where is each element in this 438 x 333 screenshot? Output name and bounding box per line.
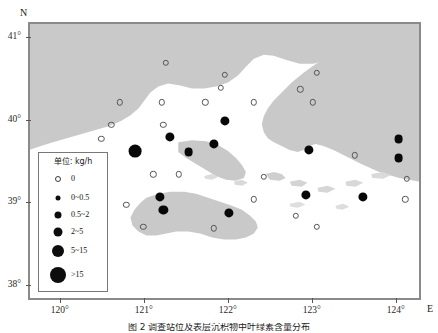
y-tick-label: 39° bbox=[0, 197, 21, 207]
x-tick-mark bbox=[312, 298, 313, 303]
station-dot bbox=[394, 153, 403, 162]
legend-label: 0~0.5 bbox=[71, 194, 89, 202]
legend-label: 0.5~2 bbox=[71, 211, 89, 219]
y-tick-label: 41° bbox=[0, 32, 21, 42]
x-tick-mark bbox=[228, 298, 229, 303]
y-tick-label: 40° bbox=[0, 115, 21, 125]
legend-label: 2~5 bbox=[71, 228, 83, 236]
north-axis-letter: N bbox=[20, 8, 27, 18]
legend-label: >15 bbox=[71, 271, 84, 279]
y-tick-mark bbox=[26, 202, 31, 203]
x-tick-label: 122° bbox=[203, 306, 253, 316]
legend-dot bbox=[54, 228, 63, 237]
legend-dot bbox=[56, 196, 61, 201]
legend-label: 5~15 bbox=[71, 247, 87, 255]
legend-title: 单位: kg/h bbox=[39, 158, 107, 166]
x-tick-label: 123° bbox=[287, 306, 337, 316]
legend-dot bbox=[50, 267, 66, 283]
station-dot bbox=[184, 148, 193, 157]
figure-root: N E 41°40°39°3 bbox=[0, 0, 438, 333]
x-tick-label: 120° bbox=[35, 306, 85, 316]
legend-dot bbox=[55, 212, 62, 219]
x-tick-mark bbox=[60, 298, 61, 303]
legend-box: 单位: kg/h 00~0.50.5~22~55~15>15 bbox=[38, 152, 108, 292]
legend-label: 0 bbox=[71, 175, 75, 183]
station-dot bbox=[128, 145, 141, 158]
x-tick-label: 124° bbox=[371, 306, 421, 316]
x-tick-label: 121° bbox=[119, 306, 169, 316]
y-tick-mark bbox=[26, 120, 31, 121]
y-tick-label: 38° bbox=[0, 280, 21, 290]
legend-dot bbox=[55, 176, 61, 182]
x-tick-mark bbox=[144, 298, 145, 303]
east-axis-letter: E bbox=[427, 304, 433, 314]
station-dot bbox=[394, 134, 403, 143]
x-tick-mark bbox=[396, 298, 397, 303]
y-tick-mark bbox=[26, 37, 31, 38]
y-tick-mark bbox=[26, 285, 31, 286]
legend-dot bbox=[52, 245, 64, 257]
figure-caption: 图 2 调查站位及表层沉积物中叶绿素含量分布 bbox=[0, 323, 438, 333]
